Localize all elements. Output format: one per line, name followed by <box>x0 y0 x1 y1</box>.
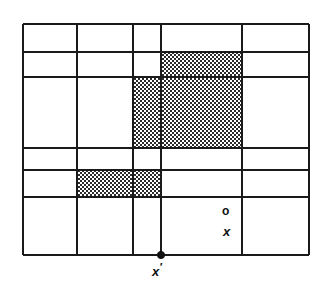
marker-xprime-label: x′ <box>152 262 162 278</box>
grid-figure-canvas <box>0 0 328 288</box>
shaded-cell-middle <box>133 77 242 148</box>
markers-group <box>157 251 164 258</box>
grid-figure: o x x′ <box>0 0 328 288</box>
marker-xprime-dot <box>157 251 164 258</box>
shaded-cell-lower-left <box>77 170 161 197</box>
marker-x-label: x <box>223 225 230 238</box>
marker-xprime-prime: ′ <box>159 261 162 273</box>
marker-o-label: o <box>222 205 229 217</box>
shaded-cell-upper <box>161 52 242 77</box>
shaded-cells-group <box>77 52 242 197</box>
